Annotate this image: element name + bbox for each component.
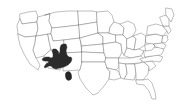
map-figure xyxy=(0,0,177,107)
state-missouri[interactable] xyxy=(103,42,122,58)
state-oklahoma[interactable] xyxy=(82,52,106,62)
us-map[interactable] xyxy=(0,0,177,107)
